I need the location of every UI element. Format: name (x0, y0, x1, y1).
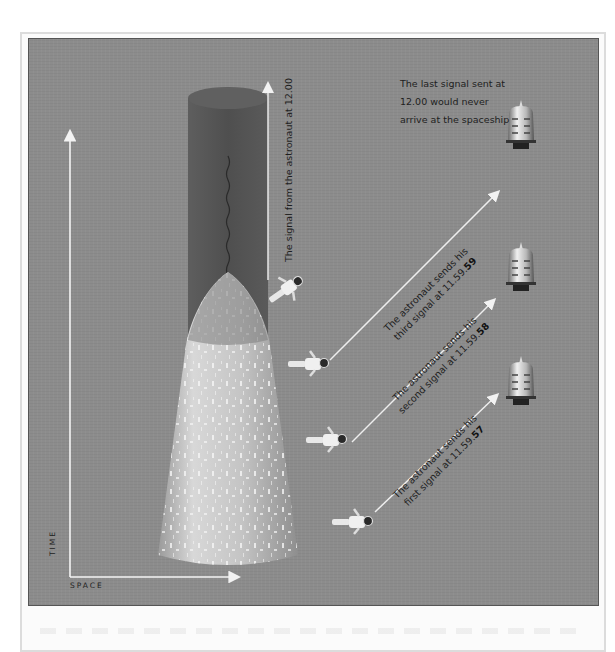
time-axis-label: TIME (48, 530, 57, 556)
astronaut-second-signal (306, 427, 347, 452)
falling-cone (158, 272, 298, 565)
space-axis-label: SPACE (70, 581, 104, 590)
astronaut-at-1200 (262, 267, 310, 312)
last-signal-line2: 12.00 would never (400, 93, 520, 111)
last-signal-line1: The last signal sent at (400, 75, 520, 93)
faint-caption-line (40, 628, 580, 634)
spaceship-icon-middle (506, 242, 536, 291)
last-signal-line3: arrive at the spaceship (400, 111, 520, 129)
spaceship-icon-bottom (506, 356, 536, 405)
signal-from-astronaut-label: The signal from the astronaut at 12.00 (282, 78, 295, 262)
last-signal-note: The last signal sent at 12.00 would neve… (400, 75, 520, 129)
astronaut-first-signal (332, 509, 373, 534)
astronaut-third-signal (288, 351, 329, 376)
